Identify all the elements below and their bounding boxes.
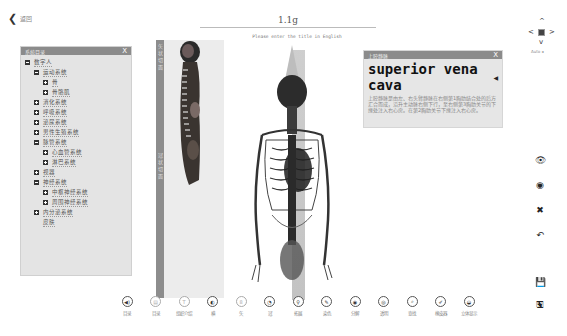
toolbar-icon: ✐ [435,296,446,307]
delete-icon[interactable]: ✖ [534,205,546,215]
chevron-up-icon[interactable]: ^ [539,18,545,25]
collapse-icon[interactable] [34,70,39,75]
tree-item[interactable]: 内分泌系统 [21,207,131,217]
save-icon[interactable]: 💾 [534,277,546,287]
tree-item[interactable]: 呼吸系统 [21,107,131,117]
toolbar-button[interactable]: ◉分解 [340,296,370,316]
bottom-toolbar: ◀)目录▤目录T组织介绍◐横8矢◔冠♀拓展✎染色◉分解◎透明⌕查找✐橡皮器◒立体… [112,296,472,326]
subtitle-placeholder[interactable]: Please enter the title in English [232,34,362,39]
toolbar-icon: ◐ [207,296,218,307]
tree-item[interactable]: 周围神经系统 [21,197,131,207]
tree-item-label: 骨骼肌 [52,88,70,97]
toolbar-icon: 8 [236,296,247,307]
collapse-icon[interactable] [34,140,39,145]
structure-chinese-name: 上腔静脉 [368,52,388,59]
speaker-icon[interactable]: ◀ [493,74,498,81]
back-button[interactable]: ❮ 返回 [8,13,32,24]
sagittal-section-image[interactable] [175,40,205,190]
toolbar-button[interactable]: ◀)目录 [112,296,142,316]
toolbar-button[interactable]: ◒立体显示 [454,296,484,316]
toolbar-label: 橡皮器 [435,310,447,316]
tree-item[interactable]: 男性生殖系统 [21,127,131,137]
tree-item[interactable]: 骨 [21,77,131,87]
expand-icon[interactable] [34,100,39,105]
tree-item-label: 神经系统 [43,178,67,187]
expand-icon[interactable] [43,190,48,195]
expand-icon[interactable] [34,210,39,215]
tree-item[interactable]: 运动系统 [21,67,131,77]
tree-item[interactable]: 神经系统 [21,177,131,187]
tree-item[interactable]: 视器 [21,167,131,177]
structure-info-panel: 上腔静脉 X superior vena cava ◀ 上腔静脉是由左、右头臂静… [363,50,503,128]
toolbar-button[interactable]: 8矢 [226,296,256,316]
toolbar-label: 目录 [123,310,131,316]
expand-icon[interactable] [43,160,48,165]
chevron-right-icon[interactable]: > [549,29,555,36]
toolbar-button[interactable]: ▤目录 [141,296,171,316]
structure-description: 上腔静脉是由左、右头臂静脉在右侧第1胸肋结合处的后方汇合而成，沿升主动脉右侧下行… [364,93,502,115]
collapse-icon[interactable] [25,60,30,65]
tree-item[interactable]: 消化系统 [21,97,131,107]
expand-icon[interactable] [34,130,39,135]
tree-item-label: 心血管系统 [52,148,82,157]
tree-item[interactable]: 淋巴系统 [21,157,131,167]
tree-item[interactable]: 心血管系统 [21,147,131,157]
coronal-label: 冠状切面 [156,152,164,180]
tree-item[interactable]: 皮肤 [21,217,131,227]
expand-icon[interactable] [34,120,39,125]
tree-item[interactable]: 骨骼肌 [21,87,131,97]
tree-item-label: 男性生殖系统 [43,128,79,137]
toolbar-icon: T [179,296,190,307]
toolbar-label: 冠 [268,310,272,316]
tree-panel-header: 系统目录 X [21,47,131,55]
chevron-down-icon[interactable]: v [539,39,543,46]
expand-icon[interactable] [43,150,48,155]
expand-icon[interactable] [34,110,39,115]
toolbar-icon: ▤ [150,296,161,307]
chevron-left-icon: ❮ [8,13,17,24]
info-close-button[interactable]: X [493,51,498,59]
tree-item[interactable]: 泌尿系统 [21,117,131,127]
tree-item-label: 呼吸系统 [43,108,67,117]
toolbar-button[interactable]: ◐横 [198,296,228,316]
tree-item[interactable]: 数字人 [21,57,131,67]
sagittal-label: 矢状切面 [156,43,164,71]
expand-icon[interactable] [34,170,39,175]
tree-item-label: 数字人 [34,58,52,67]
undo-icon[interactable]: ↶ [534,230,546,240]
toolbar-button[interactable]: ✎染色 [312,296,342,316]
3d-body-model[interactable] [232,40,352,300]
toolbar-button[interactable]: ◎透明 [369,296,399,316]
toolbar-button[interactable]: ⌕查找 [397,296,427,316]
expand-icon[interactable] [43,200,48,205]
tree-item-label: 中枢神经系统 [52,188,88,197]
save-as-icon[interactable]: 🖫 [534,300,546,310]
toolbar-button[interactable]: ◔冠 [255,296,285,316]
chevron-left-icon[interactable]: < [528,29,534,36]
toolbar-button[interactable]: T组织介绍 [169,296,199,316]
show-icon[interactable]: 👁 [534,155,546,165]
toolbar-icon: ◉ [350,296,361,307]
toolbar-button[interactable]: ♀拓展 [283,296,313,316]
hide-icon[interactable]: ◉ [534,180,546,190]
reset-view-button[interactable] [538,29,545,36]
tree-close-button[interactable]: X [122,47,127,55]
toolbar-label: 目录 [152,310,160,316]
toolbar-label: 拓展 [294,310,302,316]
leaf-spacer [34,220,39,225]
tree-item-label: 运动系统 [43,68,67,77]
title-field[interactable]: 1.1g [200,8,376,28]
toolbar-button[interactable]: ✐橡皮器 [426,296,456,316]
toolbar-icon: ◀) [122,296,133,307]
tree-item[interactable]: 脉管系统 [21,137,131,147]
toolbar-icon: ◔ [264,296,275,307]
expand-icon[interactable] [43,80,48,85]
auto-rotate-toggle[interactable]: Auto ◂ [531,49,544,54]
tree-item[interactable]: 中枢神经系统 [21,187,131,197]
collapse-icon[interactable] [34,180,39,185]
toolbar-icon: ◎ [378,296,389,307]
expand-icon[interactable] [43,90,48,95]
section-slider[interactable]: 矢状切面 冠状切面 [156,40,164,298]
tree-panel-title: 系统目录 [25,48,45,55]
tree-item-label: 骨 [52,78,58,87]
